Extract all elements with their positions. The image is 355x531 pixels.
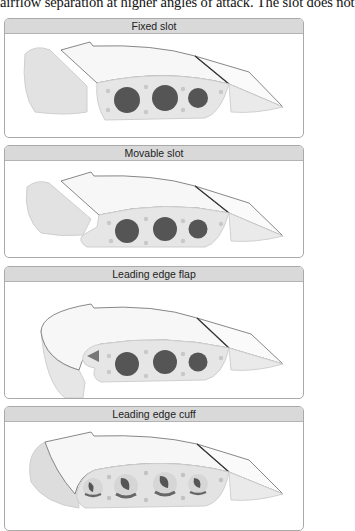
airfoil-illustration — [5, 422, 304, 531]
panel-title: Movable slot — [5, 146, 303, 161]
panel-title: Leading edge cuff — [5, 407, 303, 422]
intro-text: airflow separation at higher angles of a… — [0, 0, 320, 11]
panel-leading-edge-flap: Leading edge flap — [4, 266, 304, 399]
panel-leading-edge-cuff: Leading edge cuff — [4, 406, 304, 531]
airfoil-illustration — [5, 282, 304, 399]
panel-title: Fixed slot — [5, 19, 303, 34]
airfoil-illustration — [5, 34, 304, 138]
panel-title: Leading edge flap — [5, 267, 303, 282]
airfoil-illustration — [5, 161, 304, 258]
panel-movable-slot: Movable slot — [4, 145, 304, 258]
panel-fixed-slot: Fixed slot — [4, 18, 304, 138]
